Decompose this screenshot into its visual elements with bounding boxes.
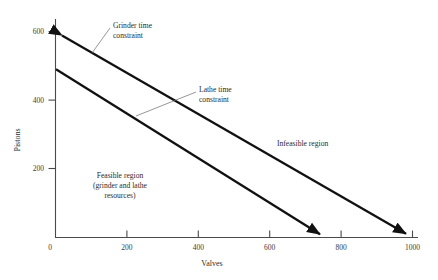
y-tick-label-0: 0: [48, 243, 52, 252]
grinder-label-line2: constraint: [113, 31, 144, 40]
linear-programming-plot: 600 400 200 0 200 400 600 800 1000 Valve…: [0, 0, 438, 280]
grinder-constraint-line: [62, 35, 406, 233]
x-tick-label-1000: 1000: [405, 243, 420, 252]
feasible-region-label-line3: resources): [104, 191, 136, 200]
lathe-label-line1: Lathe time: [199, 85, 232, 94]
grinder-leader-line: [92, 28, 110, 53]
infeasible-region-label: Infeasible region: [277, 139, 328, 148]
axis-y: [49, 19, 56, 237]
y-tick-label-600: 600: [33, 27, 45, 36]
y-tick-label-200: 200: [33, 164, 45, 173]
x-tick-label-400: 400: [193, 243, 205, 252]
chart-figure: 600 400 200 0 200 400 600 800 1000 Valve…: [0, 0, 438, 280]
axis-x: [55, 231, 418, 238]
x-tick-label-200: 200: [121, 243, 133, 252]
grinder-label-line1: Grinder time: [113, 21, 153, 30]
lathe-constraint-line: [56, 69, 320, 234]
x-axis-title: Valves: [201, 259, 222, 268]
lathe-label-line2: constraint: [199, 95, 230, 104]
feasible-region-label-line2: (grinder and lathe: [93, 181, 148, 190]
x-tick-label-800: 800: [335, 243, 347, 252]
y-tick-label-400: 400: [33, 96, 45, 105]
x-tick-label-600: 600: [264, 243, 276, 252]
feasible-region-label-line1: Feasible region: [97, 171, 144, 180]
y-axis-title: Pistons: [13, 128, 22, 151]
